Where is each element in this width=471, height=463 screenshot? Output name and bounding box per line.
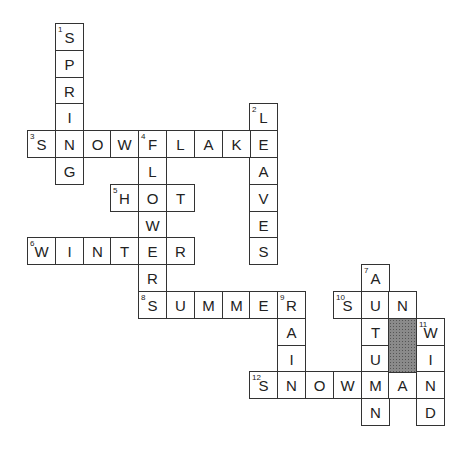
cell-letter: W: [28, 243, 55, 260]
cell-letter: S: [334, 297, 361, 314]
cell-letter: I: [417, 351, 444, 368]
cell-letter: T: [167, 190, 194, 207]
crossword-cell[interactable]: 4F: [138, 130, 167, 158]
crossword-cell[interactable]: 8S: [138, 291, 167, 319]
cell-letter: N: [389, 297, 416, 314]
crossword-cell[interactable]: T: [110, 237, 139, 265]
cell-letter: M: [362, 377, 389, 394]
crossword-cell[interactable]: L: [138, 157, 167, 185]
crossword-cell[interactable]: 3S: [27, 130, 56, 158]
crossword-cell[interactable]: O: [83, 130, 112, 158]
crossword-cell[interactable]: 1S: [55, 23, 84, 51]
cell-letter: N: [278, 377, 305, 394]
cell-letter: E: [250, 297, 277, 314]
cell-letter: O: [139, 190, 166, 207]
cell-letter: L: [250, 109, 277, 126]
crossword-cell[interactable]: D: [416, 398, 445, 426]
crossword-cell[interactable]: M: [194, 291, 223, 319]
crossword-cell[interactable]: U: [361, 291, 390, 319]
cell-letter: T: [362, 324, 389, 341]
crossword-cell[interactable]: I: [55, 237, 84, 265]
crossword-cell[interactable]: 2L: [249, 103, 278, 131]
crossword-cell[interactable]: 7A: [361, 264, 390, 292]
crossword-cell[interactable]: 9R: [277, 291, 306, 319]
cell-letter: E: [139, 243, 166, 260]
crossword-cell[interactable]: N: [416, 371, 445, 399]
crossword-cell[interactable]: O: [138, 184, 167, 212]
crossword-cell[interactable]: 12S: [249, 371, 278, 399]
cell-letter: W: [334, 377, 361, 394]
crossword-cell[interactable]: E: [138, 237, 167, 265]
crossword-cell[interactable]: A: [249, 157, 278, 185]
cell-letter: H: [111, 190, 138, 207]
crossword-cell[interactable]: M: [361, 371, 390, 399]
crossword-cell[interactable]: V: [249, 184, 278, 212]
crossword-cell[interactable]: N: [83, 237, 112, 265]
crossword-cell[interactable]: L: [166, 130, 195, 158]
cell-letter: V: [250, 190, 277, 207]
crossword-cell[interactable]: 6W: [27, 237, 56, 265]
crossword-grid: 1SPRING2LEAVES3SOW4FLAKLOWER5HT6WINTR7AU…: [0, 0, 471, 463]
cell-letter: M: [223, 297, 250, 314]
crossword-cell[interactable]: 11W: [416, 318, 445, 346]
crossword-cell[interactable]: N: [388, 291, 417, 319]
cell-letter: N: [84, 243, 111, 260]
cell-letter: S: [250, 243, 277, 260]
crossword-cell[interactable]: O: [305, 371, 334, 399]
cell-letter: A: [362, 270, 389, 287]
crossword-cell[interactable]: K: [222, 130, 251, 158]
cell-letter: I: [56, 243, 83, 260]
crossword-cell[interactable]: M: [222, 291, 251, 319]
crossword-cell[interactable]: E: [249, 130, 278, 158]
cell-letter: I: [56, 109, 83, 126]
crossword-cell[interactable]: A: [388, 371, 417, 399]
crossword-cell[interactable]: W: [110, 130, 139, 158]
cell-letter: L: [167, 136, 194, 153]
cell-letter: L: [139, 163, 166, 180]
crossword-cell[interactable]: N: [361, 398, 390, 426]
cell-letter: P: [56, 56, 83, 73]
cell-letter: R: [167, 243, 194, 260]
cell-letter: S: [139, 297, 166, 314]
cell-letter: E: [250, 217, 277, 234]
cell-letter: E: [250, 136, 277, 153]
crossword-cell[interactable]: 5H: [110, 184, 139, 212]
crossword-cell[interactable]: A: [194, 130, 223, 158]
crossword-cell[interactable]: 10S: [333, 291, 362, 319]
crossword-cell[interactable]: S: [249, 237, 278, 265]
cell-letter: U: [167, 297, 194, 314]
cell-letter: A: [278, 324, 305, 341]
crossword-cell[interactable]: A: [277, 318, 306, 346]
cell-letter: W: [417, 324, 444, 341]
crossword-cell[interactable]: R: [138, 264, 167, 292]
cell-letter: W: [139, 217, 166, 234]
cell-letter: N: [417, 377, 444, 394]
cell-letter: S: [28, 136, 55, 153]
cell-letter: D: [417, 404, 444, 421]
crossword-cell[interactable]: N: [277, 371, 306, 399]
crossword-cell[interactable]: P: [55, 50, 84, 78]
crossword-cell[interactable]: W: [333, 371, 362, 399]
cell-letter: R: [139, 270, 166, 287]
crossword-cell[interactable]: U: [361, 345, 390, 373]
cell-letter: R: [278, 297, 305, 314]
crossword-cell[interactable]: R: [55, 77, 84, 105]
crossword-cell[interactable]: I: [55, 103, 84, 131]
cell-letter: A: [195, 136, 222, 153]
cell-letter: K: [223, 136, 250, 153]
cell-letter: A: [250, 163, 277, 180]
cell-letter: I: [278, 351, 305, 368]
crossword-cell[interactable]: U: [166, 291, 195, 319]
crossword-cell[interactable]: E: [249, 291, 278, 319]
crossword-cell[interactable]: I: [416, 345, 445, 373]
cell-letter: S: [250, 377, 277, 394]
crossword-cell[interactable]: N: [55, 130, 84, 158]
crossword-cell[interactable]: G: [55, 157, 84, 185]
crossword-cell[interactable]: T: [166, 184, 195, 212]
crossword-cell[interactable]: E: [249, 211, 278, 239]
cell-letter: O: [84, 136, 111, 153]
crossword-cell[interactable]: R: [166, 237, 195, 265]
crossword-cell[interactable]: I: [277, 345, 306, 373]
crossword-cell[interactable]: T: [361, 318, 390, 346]
crossword-cell[interactable]: W: [138, 211, 167, 239]
